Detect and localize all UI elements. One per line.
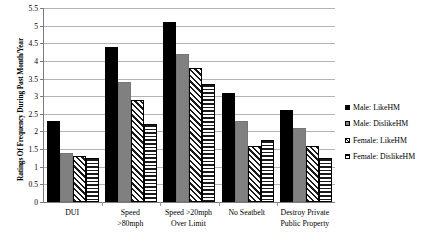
bar bbox=[248, 146, 261, 202]
bar bbox=[202, 84, 215, 202]
y-axis-tick-label: 3.5 bbox=[29, 74, 39, 83]
bar-chart: Ratings Of Frequency During Past Month/Y… bbox=[0, 0, 425, 239]
bar bbox=[189, 68, 202, 202]
bar bbox=[261, 140, 274, 202]
x-axis-tick bbox=[102, 202, 103, 206]
bar-group bbox=[160, 8, 218, 202]
bar bbox=[144, 124, 157, 202]
y-axis-tick bbox=[40, 202, 44, 203]
legend-label: Male: LikeHM bbox=[353, 103, 400, 112]
y-axis-tick-label: 2 bbox=[34, 127, 38, 136]
y-axis-tick-label: 5.5 bbox=[29, 4, 39, 13]
legend-label: Male: DislikeHM bbox=[353, 119, 408, 128]
bar bbox=[131, 100, 144, 202]
legend-swatch-icon bbox=[345, 154, 350, 159]
bar bbox=[222, 93, 235, 202]
bar bbox=[60, 153, 73, 202]
legend-item[interactable]: Female: LikeHM bbox=[345, 132, 425, 149]
legend-item[interactable]: Female: DislikeHM bbox=[345, 149, 425, 166]
legend-swatch-icon bbox=[345, 105, 350, 110]
bar bbox=[163, 22, 176, 202]
y-axis-tick-label: 4.5 bbox=[29, 39, 39, 48]
chart-legend: Male: LikeHMMale: DislikeHMFemale: LikeH… bbox=[345, 99, 425, 165]
y-axis-tick-label: 1 bbox=[34, 162, 38, 171]
bar-group bbox=[277, 8, 335, 202]
bar bbox=[86, 158, 99, 202]
y-axis-tick-label: 0 bbox=[34, 198, 38, 207]
bar bbox=[73, 156, 86, 202]
y-axis-title: Ratings Of Frequency During Past Month/Y… bbox=[16, 10, 25, 210]
bar bbox=[306, 146, 319, 202]
bar bbox=[293, 128, 306, 202]
legend-swatch-icon bbox=[345, 121, 350, 126]
y-axis-tick-label: 4 bbox=[34, 56, 38, 65]
legend-swatch-icon bbox=[345, 138, 350, 143]
bar bbox=[319, 158, 332, 202]
bar bbox=[105, 47, 118, 202]
y-axis-tick-label: 2.5 bbox=[29, 109, 39, 118]
legend-item[interactable]: Male: DislikeHM bbox=[345, 116, 425, 133]
y-axis-tick-label: 1.5 bbox=[29, 145, 39, 154]
bar-group bbox=[102, 8, 160, 202]
bar bbox=[280, 110, 293, 202]
y-axis-tick-label: 0.5 bbox=[29, 180, 39, 189]
bar-group bbox=[219, 8, 277, 202]
plot-area: 00.511.522.533.544.555.5 bbox=[43, 8, 335, 203]
bar bbox=[118, 82, 131, 202]
bar bbox=[176, 54, 189, 202]
x-axis-label: Destroy PrivatePublic Property bbox=[268, 208, 342, 229]
x-axis-tick bbox=[160, 202, 161, 206]
y-axis-tick-label: 5 bbox=[34, 21, 38, 30]
y-axis-tick-label: 3 bbox=[34, 92, 38, 101]
bar bbox=[47, 121, 60, 202]
x-axis-tick bbox=[219, 202, 220, 206]
legend-item[interactable]: Male: LikeHM bbox=[345, 99, 425, 116]
bar-group bbox=[44, 8, 102, 202]
x-axis-tick bbox=[277, 202, 278, 206]
bar bbox=[235, 121, 248, 202]
legend-label: Female: LikeHM bbox=[353, 136, 407, 145]
legend-label: Female: DislikeHM bbox=[353, 152, 415, 161]
